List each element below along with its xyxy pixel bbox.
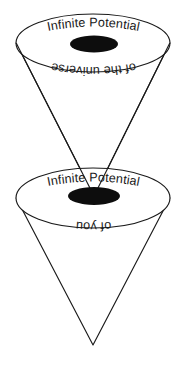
- nested-cones-diagram: Infinite Potential of the universe Infin…: [0, 0, 185, 365]
- upper-cone-singularity-icon: [70, 36, 118, 53]
- lower-cone-singularity-icon: [68, 187, 120, 205]
- diagram-canvas: Infinite Potential of the universe Infin…: [0, 0, 185, 365]
- lower-cone-label-bottom: of you: [75, 219, 112, 234]
